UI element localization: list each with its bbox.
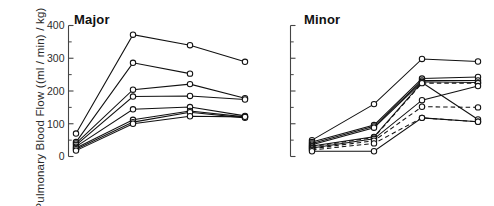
series-line-subject-7 <box>76 112 245 149</box>
y-tick-label: 200 <box>47 85 65 97</box>
data-point-marker <box>130 60 135 65</box>
data-point-marker <box>475 83 480 88</box>
panel-major: Major 0100200300400 <box>32 0 254 206</box>
data-point-marker <box>130 107 135 112</box>
plot-area-minor <box>282 0 494 206</box>
panel-minor: Minor <box>282 0 494 206</box>
data-point-marker <box>419 80 424 85</box>
data-point-marker <box>371 101 376 106</box>
data-point-marker <box>242 114 247 119</box>
data-point-marker <box>371 141 376 146</box>
data-point-marker <box>242 97 247 102</box>
data-point-marker <box>419 56 424 61</box>
series-line-subject-8 <box>76 116 245 150</box>
plot-area-major: 0100200300400 <box>32 0 254 206</box>
data-point-marker <box>187 42 192 47</box>
y-tick-label: 400 <box>47 19 65 31</box>
series-line-subject-5 <box>76 107 245 147</box>
data-point-marker <box>73 131 78 136</box>
data-point-marker <box>371 149 376 154</box>
data-point-marker <box>419 115 424 120</box>
data-point-marker <box>309 149 314 154</box>
data-point-marker <box>371 125 376 130</box>
data-point-marker <box>187 114 192 119</box>
data-point-marker <box>187 71 192 76</box>
data-point-marker <box>419 97 424 102</box>
data-point-marker <box>130 94 135 99</box>
series-line-subject-1 <box>312 59 478 140</box>
data-point-marker <box>187 81 192 86</box>
data-point-marker <box>130 32 135 37</box>
data-point-marker <box>475 119 480 124</box>
data-point-marker <box>130 121 135 126</box>
series-line-subject-3 <box>312 81 478 144</box>
series-line-subject-7 <box>312 86 478 148</box>
y-tick-label: 0 <box>59 150 65 162</box>
data-point-marker <box>130 87 135 92</box>
figure-root: Pulmonary Blood Flow ((ml / min) / kg) M… <box>0 0 494 206</box>
data-point-marker <box>73 148 78 153</box>
series-line-subject-10 <box>312 118 478 151</box>
y-tick-label: 300 <box>47 52 65 64</box>
series-line-subject-1 <box>76 35 245 134</box>
data-point-marker <box>475 59 480 64</box>
data-point-marker <box>419 104 424 109</box>
y-tick-label: 100 <box>47 118 65 130</box>
data-point-marker <box>242 59 247 64</box>
data-point-marker <box>475 105 480 110</box>
data-point-marker <box>187 93 192 98</box>
